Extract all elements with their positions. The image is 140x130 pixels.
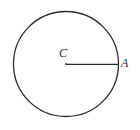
label-point-a: A [121,57,128,69]
center-point-marker [65,63,67,65]
label-center-c: C [59,47,67,59]
circle-diagram-canvas [0,0,140,130]
geometry-figure-circle: C A [0,0,140,130]
